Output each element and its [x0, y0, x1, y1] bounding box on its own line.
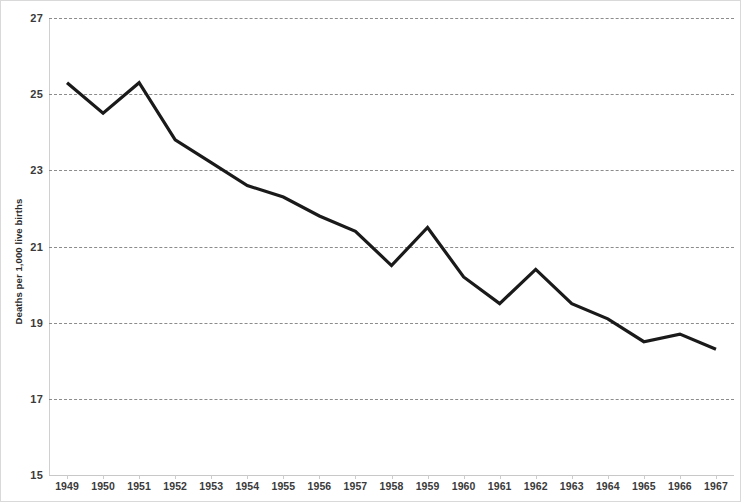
x-tick-mark-1954 — [247, 475, 248, 479]
x-tick-mark-1950 — [103, 475, 104, 479]
x-tick-mark-1960 — [464, 475, 465, 479]
x-tick-mark-1955 — [283, 475, 284, 479]
y-tick-label-23: 23 — [1, 164, 43, 176]
x-tick-mark-1966 — [680, 475, 681, 479]
gridline-25 — [49, 94, 734, 95]
gridline-27 — [49, 18, 734, 19]
x-tick-mark-1964 — [608, 475, 609, 479]
x-tick-mark-1962 — [536, 475, 537, 479]
plot-area — [49, 18, 734, 475]
gridline-19 — [49, 323, 734, 324]
x-tick-mark-1951 — [139, 475, 140, 479]
y-tick-label-15: 15 — [1, 469, 43, 481]
x-tick-label-1967: 1967 — [693, 480, 739, 492]
gridline-23 — [49, 170, 734, 171]
y-tick-label-17: 17 — [1, 393, 43, 405]
x-tick-mark-1949 — [67, 475, 68, 479]
x-tick-mark-1965 — [644, 475, 645, 479]
x-tick-mark-1957 — [355, 475, 356, 479]
gridline-17 — [49, 399, 734, 400]
y-tick-label-27: 27 — [1, 12, 43, 24]
chart-figure: 15171921232527 Deaths per 1,000 live bir… — [0, 0, 741, 502]
x-axis-tick-labels: 1949195019511952195319541955195619571958… — [49, 480, 734, 500]
x-tick-mark-1952 — [175, 475, 176, 479]
y-axis-title: Deaths per 1,000 live births — [13, 177, 24, 347]
x-tick-mark-1967 — [716, 475, 717, 479]
gridline-21 — [49, 247, 734, 248]
x-tick-mark-1958 — [392, 475, 393, 479]
y-tick-label-25: 25 — [1, 88, 43, 100]
x-tick-mark-1959 — [428, 475, 429, 479]
x-tick-mark-1963 — [572, 475, 573, 479]
x-tick-mark-1953 — [211, 475, 212, 479]
x-tick-mark-1961 — [500, 475, 501, 479]
x-tick-mark-1956 — [319, 475, 320, 479]
